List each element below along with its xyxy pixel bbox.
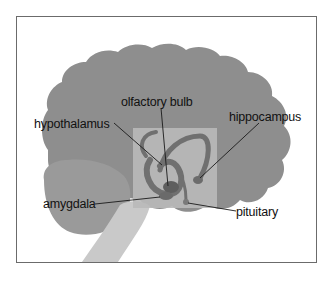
amygdala-label: amygdala [43, 198, 96, 211]
amygdala-node [159, 192, 173, 200]
brain-illustration [0, 0, 332, 282]
hypothalamus-label: hypothalamus [34, 118, 109, 131]
pituitary-node [183, 199, 189, 205]
hippocampus-label: hippocampus [229, 111, 301, 124]
olfactory-bulb-node [163, 181, 179, 193]
pituitary-label: pituitary [236, 206, 278, 219]
olfactory-bulb-label: olfactory bulb [121, 96, 193, 109]
